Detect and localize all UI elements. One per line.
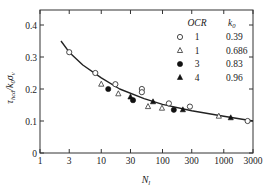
fit-curve-line xyxy=(61,41,253,121)
y-axis-title: τhcd/k0σv xyxy=(4,72,16,103)
legend-filled-triangle-icon xyxy=(177,75,182,80)
legend-k0-value: 0.39 xyxy=(226,32,243,42)
open-circle-marker-icon xyxy=(245,118,250,123)
y-tick-label: 0.3 xyxy=(25,53,37,63)
legend-ocr-value: 3 xyxy=(195,59,200,69)
y-tick-label: 0.4 xyxy=(25,21,37,31)
open-circle-marker-icon xyxy=(187,104,192,109)
legend-header-k0: k0 xyxy=(228,18,236,29)
legend-open-triangle-icon xyxy=(177,48,182,53)
filled-triangle-marker-icon xyxy=(128,94,133,99)
y-tick-label: 0.2 xyxy=(25,85,37,95)
data-points xyxy=(67,50,251,124)
series-open-circle xyxy=(67,50,251,124)
open-circle-marker-icon xyxy=(139,90,144,95)
chart: 13103010030010003000 00.10.20.30.4 OCRk0… xyxy=(0,0,271,191)
x-axis-title: Nl xyxy=(141,174,151,187)
open-circle-marker-icon xyxy=(166,101,171,106)
x-tick-label: 100 xyxy=(155,156,170,166)
y-tick-label: 0.1 xyxy=(25,117,37,127)
plot-frame xyxy=(40,10,253,153)
legend-k0-value: 0.686 xyxy=(226,46,248,56)
legend-filled-circle-icon xyxy=(177,61,182,66)
legend-ocr-value: 1 xyxy=(195,32,200,42)
open-circle-marker-icon xyxy=(113,82,118,87)
filled-circle-marker-icon xyxy=(171,107,176,112)
x-tick-label: 3 xyxy=(67,156,72,166)
open-triangle-marker-icon xyxy=(99,81,104,86)
legend: OCRk010.3910.68630.8340.96 xyxy=(177,18,247,83)
legend-k0-value: 0.96 xyxy=(226,73,243,83)
legend-ocr-value: 4 xyxy=(195,73,200,83)
open-triangle-marker-icon xyxy=(145,104,150,109)
open-circle-marker-icon xyxy=(67,50,72,55)
legend-k0-value: 0.83 xyxy=(226,59,243,69)
x-tick-label: 3000 xyxy=(244,156,263,166)
x-tick-label: 300 xyxy=(185,156,200,166)
legend-open-circle-icon xyxy=(177,34,182,39)
open-triangle-marker-icon xyxy=(116,91,121,96)
x-tick-label: 30 xyxy=(126,156,136,166)
open-circle-marker-icon xyxy=(93,70,98,75)
axes-frame xyxy=(40,10,253,153)
x-tick-label: 1000 xyxy=(214,156,233,166)
legend-header-ocr: OCR xyxy=(188,18,207,28)
y-tick-label: 0 xyxy=(32,149,37,159)
fit-curve xyxy=(61,41,253,121)
x-tick-label: 1 xyxy=(38,156,43,166)
filled-circle-marker-icon xyxy=(106,86,111,91)
x-tick-label: 10 xyxy=(97,156,107,166)
open-triangle-marker-icon xyxy=(159,105,164,110)
legend-ocr-value: 1 xyxy=(195,46,200,56)
svg-text:τhcd/k0σv: τhcd/k0σv xyxy=(4,72,16,103)
